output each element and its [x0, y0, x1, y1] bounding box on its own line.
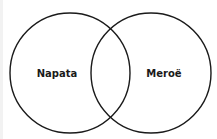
- set-label-napata: Napata: [37, 68, 78, 79]
- set-label-meroe: Meroë: [146, 68, 182, 79]
- venn-diagram: Napata Meroë: [0, 0, 217, 139]
